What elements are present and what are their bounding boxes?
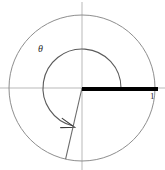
radius-length-label: 1	[150, 92, 155, 101]
angle-measure-label: θ	[38, 44, 43, 54]
terminal-side-ray	[66, 88, 82, 159]
unit-circle-figure: θ 1	[0, 0, 165, 170]
arrowhead-icon	[61, 118, 75, 127]
unit-circle-diagram	[0, 0, 165, 170]
